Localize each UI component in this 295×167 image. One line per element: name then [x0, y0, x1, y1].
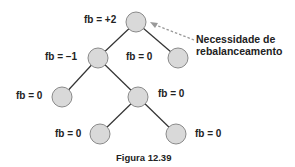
label-right: fb = 0 — [126, 51, 152, 62]
label-lr-right: fb = 0 — [195, 128, 221, 139]
label-left-right: fb = 0 — [158, 88, 184, 99]
label-left-left: fb = 0 — [16, 90, 42, 101]
figure-caption: Figura 12.39 — [116, 152, 171, 163]
note-line-2: rebalanceamento — [196, 45, 282, 57]
tree-canvas — [0, 0, 295, 167]
node-left — [88, 48, 108, 68]
rebalance-note: Necessidade de rebalanceamento — [196, 33, 282, 57]
node-lr-left — [90, 124, 110, 144]
edges — [62, 22, 178, 134]
label-lr-left: fb = 0 — [55, 128, 81, 139]
label-root: fb = +2 — [84, 14, 116, 25]
node-root — [126, 12, 146, 32]
label-left: fb = –1 — [45, 51, 77, 62]
node-right — [168, 48, 188, 68]
node-lr-right — [166, 124, 186, 144]
node-left-right — [128, 87, 148, 107]
annotation-arrow — [150, 22, 194, 40]
node-left-left — [52, 87, 72, 107]
note-line-1: Necessidade de — [196, 33, 282, 45]
